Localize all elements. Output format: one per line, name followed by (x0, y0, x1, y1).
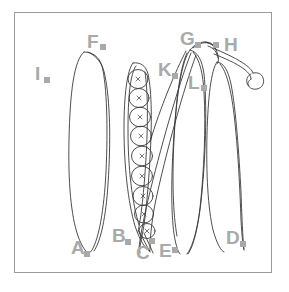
label-marker-h (213, 42, 219, 48)
pod-left-closed (69, 52, 110, 253)
label-l: L (188, 73, 200, 92)
label-f: F (87, 32, 99, 51)
label-h: H (224, 35, 238, 54)
label-marker-d (240, 241, 246, 247)
label-marker-f (100, 44, 106, 50)
label-marker-i (44, 77, 50, 83)
pod-open-seeds (124, 63, 153, 253)
label-marker-k (172, 73, 178, 79)
label-c: C (136, 243, 150, 262)
label-marker-l (201, 85, 207, 91)
label-marker-g (195, 42, 201, 48)
pod-far-right (207, 62, 244, 252)
label-marker-c (149, 238, 155, 244)
label-marker-a (84, 251, 90, 257)
label-k: K (158, 60, 172, 79)
label-i: I (35, 64, 40, 83)
label-d: D (226, 228, 240, 247)
label-e: E (159, 241, 172, 260)
label-marker-b (125, 239, 131, 245)
label-marker-e (172, 247, 178, 253)
label-a: A (71, 238, 85, 257)
figure-root: A B C D E F G H I K L (0, 0, 289, 292)
label-g: G (180, 29, 195, 48)
label-b: B (112, 226, 126, 245)
